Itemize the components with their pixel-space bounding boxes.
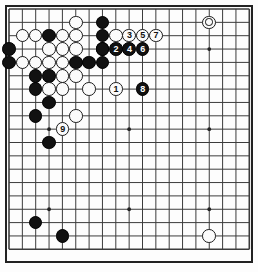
star-point (127, 207, 131, 211)
move-number-label: 1 (114, 84, 119, 93)
stone-black[interactable] (42, 136, 56, 150)
stone-black[interactable] (69, 56, 83, 70)
stone-white[interactable] (56, 69, 70, 83)
stone-white[interactable] (202, 229, 216, 243)
stone-black[interactable] (42, 96, 56, 110)
stone-move-8[interactable]: 8 (136, 82, 150, 96)
stone-white[interactable] (69, 29, 83, 43)
stone-white[interactable] (69, 69, 83, 83)
move-number-label: 7 (154, 31, 159, 40)
stone-white[interactable] (42, 56, 56, 70)
stone-move-4[interactable]: 4 (122, 42, 136, 56)
stone-black[interactable] (96, 42, 110, 56)
star-point (207, 47, 211, 51)
move-number-label: 5 (140, 31, 145, 40)
stone-black[interactable] (29, 109, 43, 123)
stone-white[interactable] (69, 16, 83, 30)
stone-white[interactable] (56, 82, 70, 96)
move-number-label: 2 (114, 44, 119, 53)
stone-black[interactable] (2, 42, 16, 56)
stone-move-1[interactable]: 1 (109, 82, 123, 96)
stone-black[interactable] (56, 229, 70, 243)
move-number-label: 6 (140, 44, 145, 53)
stone-black[interactable] (82, 56, 96, 70)
stone-move-2[interactable]: 2 (109, 42, 123, 56)
star-point (47, 127, 51, 131)
stone-move-7[interactable]: 7 (149, 29, 163, 43)
stone-black[interactable] (29, 69, 43, 83)
move-number-label: 4 (127, 44, 132, 53)
move-number-label: 3 (127, 31, 132, 40)
stone-black[interactable] (2, 56, 16, 70)
stone-white[interactable] (42, 82, 56, 96)
circle-mark-icon (205, 18, 212, 25)
stone-move-9[interactable]: 9 (56, 122, 70, 136)
stone-white[interactable] (202, 16, 216, 30)
stone-white[interactable] (109, 29, 123, 43)
star-point (207, 127, 211, 131)
move-number-label: 9 (60, 124, 65, 133)
star-point (207, 207, 211, 211)
stone-black[interactable] (42, 69, 56, 83)
go-board-diagram: 357246189 (0, 0, 258, 272)
stone-white[interactable] (69, 42, 83, 56)
stone-white[interactable] (82, 82, 96, 96)
stone-white[interactable] (42, 42, 56, 56)
stone-move-6[interactable]: 6 (136, 42, 150, 56)
move-number-label: 8 (140, 84, 145, 93)
stone-white[interactable] (56, 42, 70, 56)
star-point (47, 207, 51, 211)
star-point (127, 127, 131, 131)
stone-white[interactable] (69, 109, 83, 123)
